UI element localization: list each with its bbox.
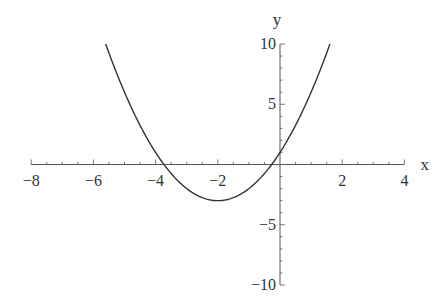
x-tick-label: 4 [400,172,408,189]
x-tick-label: −6 [85,172,102,189]
x-tick-label: −4 [147,172,164,189]
y-tick-label: 5 [268,95,276,112]
x-tick-label: 2 [338,172,346,189]
x-tick-label: −2 [209,172,226,189]
y-tick-label: −5 [259,216,276,233]
function-plot: −8−6−4−224−10−5510 x y [0,0,441,302]
y-tick-label: 10 [260,35,276,52]
x-axis-label: x [420,155,429,174]
y-tick-label: −10 [251,276,276,293]
x-tick-label: −8 [23,172,40,189]
y-axis-label: y [273,10,282,29]
